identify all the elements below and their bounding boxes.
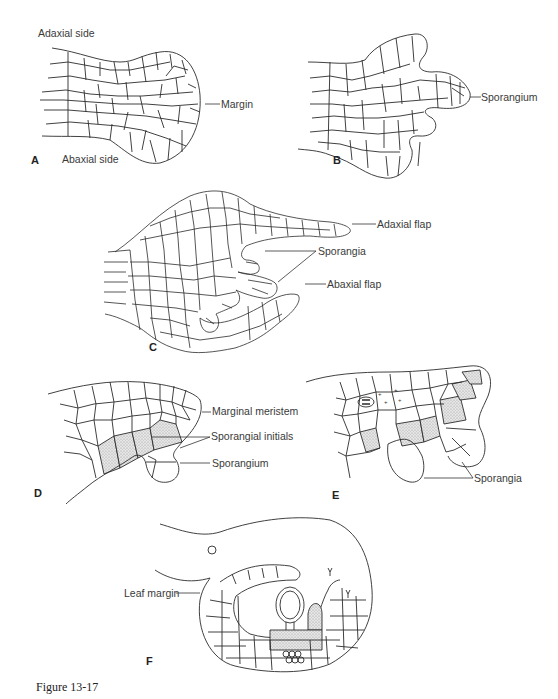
- panel-d-drawing: [48, 382, 201, 504]
- panel-letter-a: A: [31, 155, 39, 166]
- panel-a-drawing: [40, 48, 200, 163]
- label-adaxial-flap: Adaxial flap: [377, 219, 431, 230]
- panel-f-drawing: [155, 518, 372, 672]
- label-abaxial-side: Abaxial side: [62, 154, 119, 165]
- svg-text:+: +: [398, 397, 402, 403]
- panel-letter-c: C: [149, 342, 157, 353]
- figure-caption: Figure 13-17: [36, 680, 98, 695]
- panel-letter-d: D: [34, 488, 42, 499]
- figure-canvas: + + + +: [0, 0, 558, 699]
- label-sporangial-initials: Sporangial initials: [211, 431, 293, 442]
- panel-letter-f: F: [146, 656, 153, 667]
- panel-c-drawing: [104, 191, 350, 353]
- label-abaxial-flap: Abaxial flap: [327, 279, 381, 290]
- label-margin: Margin: [221, 99, 253, 110]
- panel-letter-b: B: [333, 155, 341, 166]
- label-marginal-meristem: Marginal meristem: [212, 406, 298, 417]
- label-sporangium-b: Sporangium: [481, 92, 538, 103]
- svg-text:+: +: [394, 387, 398, 393]
- label-adaxial-side: Adaxial side: [38, 28, 95, 39]
- panel-e-drawing: + + + +: [306, 366, 491, 482]
- panel-b-drawing: [298, 34, 470, 178]
- svg-text:+: +: [384, 399, 388, 405]
- panel-letter-e: E: [332, 490, 339, 501]
- svg-text:+: +: [378, 391, 382, 397]
- label-leaf-margin: Leaf margin: [124, 588, 179, 599]
- label-sporangia-e: Sporangia: [474, 473, 522, 484]
- label-sporangium-d: Sporangium: [212, 458, 269, 469]
- label-sporangia-c: Sporangia: [318, 246, 366, 257]
